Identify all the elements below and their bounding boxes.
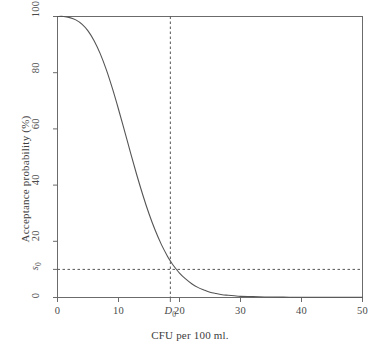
chart-figure: 010D020304050 0s020406080100 Acceptance …	[0, 0, 381, 358]
y-axis-title-wrap: Acceptance probability (%)	[18, 0, 32, 358]
y-axis-ticks	[53, 17, 58, 298]
x-axis-title: CFU per 100 ml.	[151, 330, 229, 341]
x-tick-label-20: 20	[174, 306, 185, 317]
x-axis-ticks	[58, 298, 363, 303]
x-tick-label-50: 50	[357, 306, 368, 317]
x-tick-label-10: 10	[113, 306, 124, 317]
y-axis-title: Acceptance probability (%)	[20, 116, 31, 243]
x-tick-label-30: 30	[235, 306, 246, 317]
x-tick-label-0: 0	[55, 306, 60, 317]
data-curve	[58, 16, 363, 297]
x-tick-label-40: 40	[296, 306, 307, 317]
reference-lines	[58, 17, 363, 298]
plot-frame	[58, 17, 363, 298]
